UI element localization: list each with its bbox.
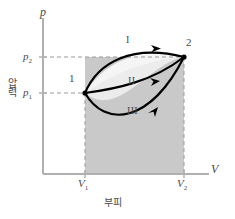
y-tick-label-p1: p1 — [23, 87, 32, 101]
y-tick-p2-sub: 2 — [29, 57, 33, 65]
x-tick-v2-sub: 2 — [184, 184, 188, 192]
process-label-III: III — [127, 106, 138, 116]
x-tick-v1-base: V — [78, 177, 85, 189]
y-tick-label-p2: p2 — [23, 51, 32, 65]
x-tick-v1-sub: 1 — [85, 184, 89, 192]
arrowhead-curve-I — [151, 45, 161, 53]
x-axis-title-korean: 부피 — [104, 198, 122, 208]
y-axis-title-korean: 압력 — [6, 78, 16, 96]
y-tick-p1-sub: 1 — [29, 93, 33, 101]
y-axis-symbol: p — [40, 6, 46, 18]
x-tick-label-v1: V1 — [78, 178, 88, 192]
pv-diagram-canvas — [0, 0, 235, 219]
state-label-2: 2 — [186, 37, 192, 48]
state-label-1: 1 — [69, 73, 75, 84]
x-axis-symbol: V — [211, 163, 218, 175]
state-point-1-marker — [82, 90, 87, 95]
x-tick-v2-base: V — [177, 177, 184, 189]
state-point-2-marker — [181, 54, 186, 59]
x-tick-label-v2: V2 — [177, 178, 187, 192]
pv-diagram-figure: p V p2 p1 V1 V2 1 2 I II III 압력 부피 — [0, 0, 235, 219]
process-label-II: II — [128, 76, 135, 86]
process-label-I: I — [126, 35, 130, 45]
